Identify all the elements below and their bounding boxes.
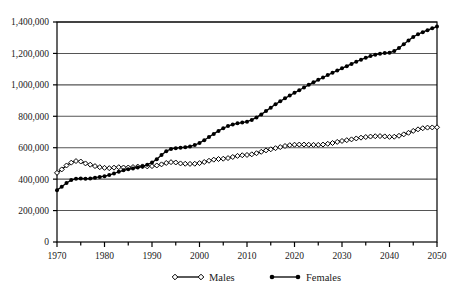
x-tick-label: 2020 [285, 251, 304, 261]
marker-filled-circle [79, 177, 83, 181]
marker-filled-circle [307, 83, 311, 87]
marker-filled-circle [430, 26, 434, 30]
y-tick-label: 1,400,000 [11, 17, 49, 27]
population-line-chart: 0200,000400,000600,000800,0001,000,0001,… [0, 0, 460, 291]
marker-filled-circle [160, 153, 164, 157]
marker-filled-circle [421, 30, 425, 34]
marker-filled-circle [226, 124, 230, 128]
marker-filled-circle [407, 38, 411, 42]
marker-filled-circle [302, 86, 306, 90]
marker-filled-circle [84, 177, 88, 181]
marker-filled-circle [288, 94, 292, 98]
marker-filled-circle [93, 176, 97, 180]
marker-filled-circle [416, 32, 420, 36]
marker-filled-circle [231, 122, 235, 126]
marker-filled-circle [345, 64, 349, 68]
marker-filled-circle [150, 160, 154, 164]
marker-filled-circle [364, 56, 368, 60]
marker-filled-circle [354, 60, 358, 64]
marker-filled-circle [169, 147, 173, 151]
x-tick-label: 2040 [380, 251, 399, 261]
marker-filled-circle [397, 46, 401, 50]
marker-filled-circle [145, 163, 149, 167]
marker-filled-circle [350, 62, 354, 66]
y-tick-label: 800,000 [18, 112, 49, 122]
marker-filled-circle [207, 135, 211, 139]
marker-filled-circle [179, 146, 183, 150]
marker-filled-circle [217, 129, 221, 133]
marker-filled-circle [65, 181, 69, 185]
marker-filled-circle [141, 164, 145, 168]
marker-filled-circle [250, 118, 254, 122]
marker-filled-circle [259, 112, 263, 116]
marker-filled-circle [88, 177, 92, 181]
marker-filled-circle [164, 149, 168, 153]
x-tick-label: 2050 [428, 251, 447, 261]
marker-filled-circle [212, 132, 216, 136]
marker-filled-circle [122, 168, 126, 172]
marker-filled-circle [435, 24, 439, 28]
legend-label: Females [306, 272, 341, 283]
marker-filled-circle [221, 126, 225, 130]
y-tick-label: 1,000,000 [11, 80, 49, 90]
marker-filled-circle [107, 173, 111, 177]
chart-canvas: 0200,000400,000600,000800,0001,000,0001,… [0, 0, 460, 291]
marker-filled-circle [183, 145, 187, 149]
marker-filled-circle [264, 109, 268, 113]
marker-filled-circle [278, 99, 282, 103]
marker-filled-circle [240, 121, 244, 125]
marker-filled-circle [112, 171, 116, 175]
marker-filled-circle [198, 141, 202, 145]
x-tick-label: 1970 [48, 251, 67, 261]
marker-filled-circle [411, 35, 415, 39]
marker-filled-circle [373, 53, 377, 57]
marker-filled-circle [426, 28, 430, 32]
marker-filled-circle [270, 275, 275, 280]
y-tick-label: 400,000 [18, 175, 49, 185]
marker-filled-circle [335, 69, 339, 73]
marker-filled-circle [326, 73, 330, 77]
marker-filled-circle [331, 71, 335, 75]
y-tick-label: 0 [44, 237, 49, 247]
marker-filled-circle [202, 138, 206, 142]
marker-filled-circle [321, 75, 325, 79]
marker-filled-circle [131, 166, 135, 170]
marker-filled-circle [188, 144, 192, 148]
marker-filled-circle [340, 66, 344, 70]
marker-filled-circle [297, 88, 301, 92]
marker-filled-circle [378, 52, 382, 56]
marker-filled-circle [369, 54, 373, 58]
marker-filled-circle [236, 121, 240, 125]
marker-filled-circle [55, 188, 59, 192]
marker-filled-circle [74, 177, 78, 181]
marker-filled-circle [98, 175, 102, 179]
marker-filled-circle [293, 91, 297, 95]
x-tick-label: 1980 [95, 251, 114, 261]
marker-filled-circle [316, 78, 320, 82]
x-tick-label: 2030 [333, 251, 352, 261]
chart-background [0, 0, 460, 291]
marker-filled-circle [155, 157, 159, 161]
marker-filled-circle [117, 170, 121, 174]
y-tick-label: 600,000 [18, 143, 49, 153]
marker-filled-circle [60, 185, 64, 189]
marker-filled-circle [392, 49, 396, 53]
marker-filled-circle [283, 96, 287, 100]
marker-filled-circle [193, 143, 197, 147]
marker-filled-circle [69, 178, 73, 182]
marker-filled-circle [296, 275, 301, 280]
legend-label: Males [209, 272, 235, 283]
marker-filled-circle [274, 102, 278, 106]
marker-filled-circle [312, 80, 316, 84]
x-tick-label: 2010 [238, 251, 257, 261]
marker-filled-circle [359, 58, 363, 62]
x-axis-tick-labels: 197019801990200020102020203020402050 [48, 251, 447, 261]
marker-filled-circle [388, 51, 392, 55]
y-tick-label: 1,200,000 [11, 49, 49, 59]
marker-filled-circle [402, 42, 406, 46]
marker-filled-circle [269, 106, 273, 110]
y-tick-label: 200,000 [18, 206, 49, 216]
marker-filled-circle [136, 166, 140, 170]
x-tick-label: 1990 [143, 251, 162, 261]
marker-filled-circle [245, 120, 249, 124]
